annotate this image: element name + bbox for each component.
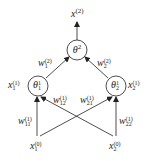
- w2-2-sub: 2: [104, 64, 111, 69]
- weight-w2-2: w(2)2: [97, 58, 111, 69]
- weight-w12-1: w(1)12: [53, 95, 67, 106]
- w21-1-sub: 21: [87, 101, 94, 106]
- weight-w1-2: w(2)1: [38, 58, 52, 69]
- edge-w21-1: [40, 97, 112, 136]
- edge-w12-1: [41, 97, 113, 136]
- w12-1-base: w: [53, 94, 60, 105]
- weight-w11-1: w(1)11: [18, 116, 32, 127]
- w11-1-base: w: [18, 115, 25, 126]
- hidden-output-label-1: x(1)1: [8, 80, 19, 91]
- w1-2-base: w: [38, 57, 45, 68]
- input-label-1: x(0)1: [30, 141, 41, 152]
- output-sup: (2): [75, 7, 83, 15]
- weight-w21-1: w(1)21: [80, 95, 94, 106]
- x1-0-sub: 1: [34, 147, 41, 152]
- w11-1-sub: 11: [25, 122, 32, 127]
- x1-1-sub: 1: [12, 86, 19, 91]
- x2-0-sub: 2: [113, 147, 120, 152]
- theta-1-2-sub: 2: [116, 86, 119, 91]
- w1-2-sub: 1: [45, 64, 52, 69]
- x2-1-sub: 2: [132, 86, 139, 91]
- w12-1-sub: 12: [60, 101, 67, 106]
- hidden-output-label-2: x(1)2: [128, 80, 139, 91]
- w2-2-base: w: [97, 57, 104, 68]
- w21-1-base: w: [80, 94, 87, 105]
- weight-w22-1: w(1)22: [119, 116, 133, 127]
- w22-1-base: w: [119, 115, 126, 126]
- theta-2-sup: 2: [78, 43, 82, 51]
- theta-1-1-sub: 1: [38, 86, 41, 91]
- node-theta-1-1-label: θ11: [27, 80, 47, 91]
- node-theta-1-2-label: θ12: [105, 80, 125, 91]
- output-label: x(2): [71, 8, 84, 19]
- w22-1-sub: 22: [126, 122, 133, 127]
- node-theta-2-label: θ2: [67, 44, 87, 55]
- input-label-2: x(0)2: [109, 141, 120, 152]
